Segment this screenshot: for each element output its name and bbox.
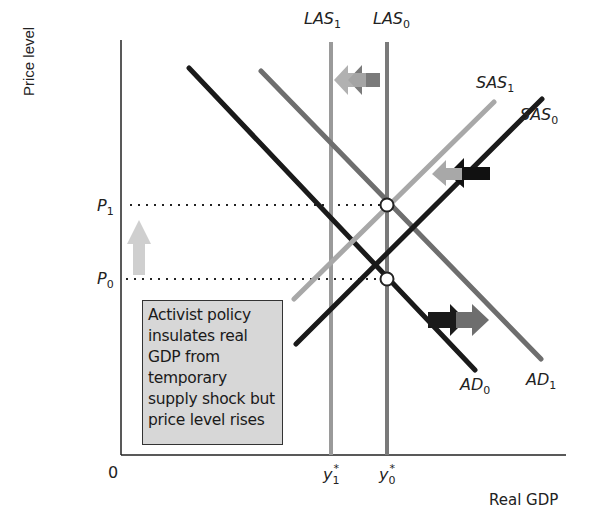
y0-label-sub: 0 — [388, 474, 395, 487]
y1-star-tick-label: y1* — [323, 467, 345, 483]
x-axis-label: Real GDP — [489, 493, 558, 508]
p1-label-sub: 1 — [107, 205, 114, 218]
ad0-label: AD0 — [460, 377, 490, 393]
p1-tick-label: P1 — [97, 198, 114, 214]
p1-label-main: P — [97, 196, 107, 215]
las0-label-sub: 0 — [403, 18, 410, 31]
las1-label-sub: 1 — [334, 18, 341, 31]
sas1-label-sub: 1 — [507, 82, 514, 95]
sas1-line — [294, 102, 494, 299]
ad0-label-main: AD — [460, 375, 483, 394]
las1-label: LAS1 — [304, 11, 341, 27]
ad1-label: AD1 — [526, 372, 556, 388]
y0-label-sup: * — [389, 462, 395, 475]
y-axis-label: Price level — [20, 27, 37, 96]
annotation-box: Activist policy insulates real GDP from … — [142, 300, 283, 445]
sas0-label-sub: 0 — [551, 114, 558, 127]
sas1-label: SAS1 — [476, 75, 514, 91]
p0-label-sub: 0 — [107, 278, 114, 291]
p0-label-main: P — [97, 269, 107, 288]
price-rise-arrow-icon — [127, 220, 151, 275]
las1-label-main: LAS — [304, 9, 334, 28]
p0-tick-label: P0 — [97, 271, 114, 287]
las0-label: LAS0 — [373, 11, 410, 27]
ad0-label-sub: 0 — [483, 384, 490, 397]
las0-label-main: LAS — [373, 9, 403, 28]
las-shift-arrow-icon — [334, 65, 380, 95]
y1-label-sup: * — [333, 462, 339, 475]
y0-star-tick-label: y0* — [379, 467, 401, 483]
sas1-label-main: SAS — [476, 73, 507, 92]
y1-label-sub: 1 — [332, 474, 339, 487]
origin-label: 0 — [108, 465, 118, 481]
equilibrium-point-p1 — [381, 199, 394, 212]
equilibrium-point-p0 — [381, 273, 394, 286]
ad1-label-main: AD — [526, 370, 549, 389]
sas0-label-main: SAS — [520, 105, 551, 124]
sas0-label: SAS0 — [520, 107, 558, 123]
ad1-label-sub: 1 — [549, 379, 556, 392]
ad1-line — [261, 71, 541, 359]
